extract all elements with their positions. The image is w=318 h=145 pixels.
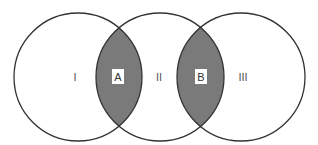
label-overlap-a: A xyxy=(114,71,122,83)
venn-svg: I II III A B xyxy=(0,0,318,145)
label-region-iii: III xyxy=(238,71,247,83)
label-region-i: I xyxy=(73,71,76,83)
label-region-ii: II xyxy=(156,71,162,83)
label-overlap-b: B xyxy=(197,71,204,83)
venn-diagram: I II III A B xyxy=(0,0,318,145)
